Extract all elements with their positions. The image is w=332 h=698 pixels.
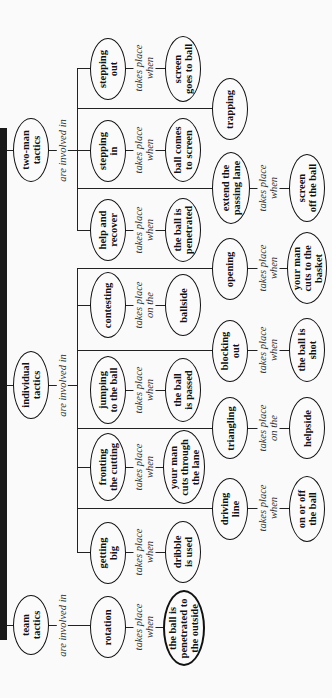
node-on-or-off-the-ball: on or off the ball: [289, 476, 325, 542]
relation-label: are involved in: [54, 110, 70, 190]
node-the-ball-is-penetrated-to-the-outside: the ball is penetrated to the outside: [163, 590, 205, 666]
relation-label: takes place when: [130, 40, 158, 96]
node-triangling: triangling: [212, 397, 248, 459]
node-stepping-out: stepping out: [90, 38, 126, 100]
node-jumping-to-the-ball: jumping to the ball: [90, 356, 126, 424]
connector: [77, 428, 213, 429]
connector: [77, 230, 91, 231]
connector: [77, 350, 213, 351]
node-screen-off-the-ball: screen off the ball: [289, 154, 325, 222]
connector: [77, 150, 91, 151]
node-your-man-cuts-through-the-lane: your man cuts through the lane: [163, 430, 205, 504]
node-ball-comes-to-screen: ball comes to screen: [165, 118, 201, 182]
node-extend-the-passing-lane: extend the passing lane: [212, 152, 250, 224]
node-fronting-the-cutting: fronting the cutting: [90, 433, 126, 501]
node-blocking-out: blocking out: [212, 320, 248, 382]
node-individual-tactics: individual tactics: [13, 351, 49, 419]
node-team-tactics: team tactics: [13, 595, 49, 655]
page-binding-edge: [0, 128, 7, 640]
connector: [77, 552, 91, 553]
relation-label: takes place on the: [130, 277, 158, 333]
node-screen-goes-to-ball: screen goes to ball: [165, 36, 201, 102]
relation-label: takes place when: [254, 160, 282, 216]
relation-label: takes place when: [254, 240, 282, 296]
node-dribble-is-used: dribble is used: [165, 521, 201, 583]
node-two-man-tactics: two-man tactics: [13, 118, 49, 182]
relation-label: are involved in: [54, 585, 70, 665]
node-ballside: ballside: [165, 274, 201, 336]
connector: [77, 188, 213, 189]
node-opening: opening: [212, 238, 248, 300]
node-getting-big: getting big: [90, 522, 126, 584]
node-trapping: trapping: [212, 78, 248, 140]
relation-label: takes place when: [130, 362, 158, 418]
node-stepping-in: stepping in: [90, 120, 126, 182]
node-helpside: helpside: [289, 397, 325, 459]
connector: [77, 68, 91, 69]
relation-label: takes place when: [130, 524, 158, 580]
connector: [77, 305, 91, 306]
node-driving-line: driving line: [212, 478, 248, 540]
connector: [77, 268, 213, 269]
node-rotation: rotation: [90, 596, 126, 658]
connector: [77, 467, 91, 468]
branch-line-individual: [77, 268, 78, 553]
node-help-and-recover: help and recover: [90, 199, 126, 261]
node-your-man-cuts-to-the-basket: your man cuts to the basket: [287, 232, 327, 304]
relation-label: takes place when: [254, 480, 282, 536]
node-the-ball-is-penetrated: the ball is penetrated: [165, 198, 201, 262]
connector: [77, 508, 213, 509]
connector: [77, 108, 213, 109]
relation-label: takes place when: [130, 202, 158, 258]
relation-label: takes place when: [130, 439, 158, 495]
concept-map: are involved in are involved in are invo…: [0, 0, 332, 698]
node-the-ball-is-shot: the ball is shot: [289, 318, 325, 382]
relation-label: are involved in: [54, 345, 70, 425]
relation-label: takes place on the: [254, 400, 282, 456]
relation-label: takes place when: [130, 599, 158, 655]
relation-label: takes place when: [130, 122, 158, 178]
node-contesting: contesting: [90, 272, 126, 338]
relation-label: takes place when: [254, 322, 282, 378]
node-the-ball-is-passed: the ball is passed: [165, 358, 201, 422]
